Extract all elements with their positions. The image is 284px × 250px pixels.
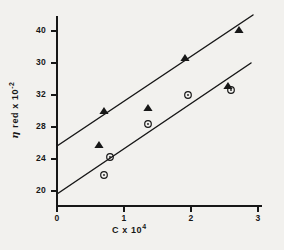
y-axis-title-text: red x 10 (10, 89, 20, 131)
fit-lines (57, 15, 253, 194)
data-point-circle (145, 121, 152, 128)
figure-container: 40 30 32 28 24 20 0 1 2 3 C x 104 η red … (0, 0, 284, 250)
x-tick-label-2: 2 (184, 213, 198, 223)
y-tick-label-5: 20 (24, 185, 46, 195)
data-point-triangle (143, 104, 152, 111)
y-tick-label-0: 40 (24, 25, 46, 35)
x-axis-title-exponent: 4 (142, 223, 147, 230)
data-point-triangle (94, 141, 103, 148)
x-tick-label-1: 1 (117, 213, 131, 223)
fit-line-circle-series (57, 63, 251, 194)
x-axis-title-text: C x 10 (112, 225, 142, 235)
x-axis-ticks (57, 206, 258, 212)
y-tick-label-1: 30 (24, 57, 46, 67)
y-axis-title: η red x 10-2 (8, 70, 20, 150)
x-axis-title: C x 104 (112, 223, 147, 235)
circle-series-markers (101, 87, 235, 179)
y-tick-label-4: 24 (24, 153, 46, 163)
axis-lines (57, 16, 262, 206)
x-tick-label-0: 0 (50, 213, 64, 223)
y-axis-ticks (51, 31, 57, 191)
y-tick-label-2: 32 (24, 89, 46, 99)
x-tick-label-3: 3 (251, 213, 265, 223)
y-tick-label-3: 28 (24, 121, 46, 131)
data-point-circle (185, 92, 192, 99)
data-point-circle (101, 172, 108, 179)
y-axis-title-exponent: -2 (8, 81, 15, 88)
data-point-triangle (99, 107, 108, 114)
triangle-series-markers (94, 26, 243, 148)
fit-line-triangle-series (57, 15, 253, 146)
eta-symbol: η (9, 131, 20, 139)
